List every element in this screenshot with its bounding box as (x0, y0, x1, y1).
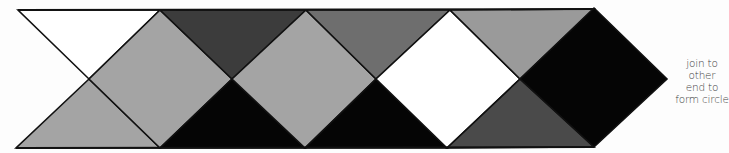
instruction-line-4: form circle (672, 93, 729, 105)
instruction-line-3: end to (672, 81, 729, 93)
top-edge (18, 9, 594, 10)
bottom-edge (16, 147, 594, 148)
join-instruction-label: join to other end to form circle (672, 57, 729, 105)
instruction-line-1: join to (672, 57, 729, 69)
instruction-line-2: other (672, 69, 729, 81)
pattern-shapes (16, 8, 667, 148)
pattern-strip (0, 0, 729, 153)
